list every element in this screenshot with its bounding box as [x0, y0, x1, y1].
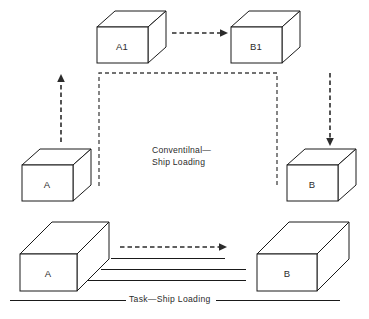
box-b-right-front-face — [287, 165, 338, 201]
task-loading-caption: Task—Ship Loading — [126, 294, 214, 304]
box-a-left — [22, 149, 91, 201]
flow-arrow-a-to-a1 — [57, 74, 65, 142]
conventional-loading-caption-line2: Ship Loading — [152, 157, 211, 169]
box-a-left-front-face — [22, 165, 73, 201]
box-b-bottom — [257, 222, 349, 291]
box-b1-front-face — [231, 27, 282, 63]
box-b1 — [231, 11, 300, 63]
conventional-loading-caption-line1: Conventilnal— — [152, 145, 211, 157]
box-b-bottom-front-face — [257, 254, 317, 291]
conventional-loading-caption: Conventilnal— Ship Loading — [152, 145, 211, 168]
flow-arrow-b1-to-b — [326, 73, 334, 146]
box-a-bottom-front-face — [20, 254, 77, 291]
flow-arrow-a-to-b-task — [120, 243, 227, 251]
box-b-right — [287, 149, 356, 201]
box-a1-front-face — [97, 27, 148, 63]
flow-arrow-a1-to-b1 — [172, 29, 228, 37]
diagram-canvas: A1 B1 A B A B Conventilnal— Ship Loading… — [0, 0, 369, 319]
conventional-loading-boundary — [99, 73, 277, 186]
task-rail-lines — [88, 259, 246, 281]
box-a1 — [97, 11, 166, 63]
